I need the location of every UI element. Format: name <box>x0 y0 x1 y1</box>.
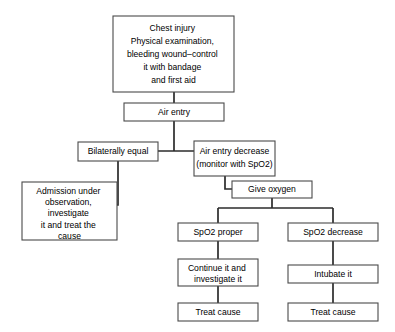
node-air-entry-decrease-label-line1: Air entry decrease <box>200 146 270 156</box>
node-bilaterally-equal-label: Bilaterally equal <box>88 146 149 156</box>
node-air-entry-label: Air entry <box>158 107 191 117</box>
node-spo2-proper: SpO2 proper <box>178 223 258 241</box>
node-spo2-decrease-label: SpO2 decrease <box>303 227 363 237</box>
node-treat-cause-left: Treat cause <box>178 303 258 321</box>
node-give-oxygen: Give oxygen <box>232 181 312 198</box>
chest-injury-flowchart: Chest injury Physical examination, bleed… <box>0 0 395 332</box>
node-spo2-proper-label: SpO2 proper <box>193 227 242 237</box>
node-spo2-decrease: SpO2 decrease <box>288 223 378 241</box>
node-continue-investigate-label: Continue it and investigate it <box>188 263 248 285</box>
node-air-entry: Air entry <box>124 103 224 121</box>
node-intubate-label: Intubate it <box>314 269 352 279</box>
node-air-entry-decrease-label-line2: (monitor with SpO2) <box>196 159 273 169</box>
node-treat-cause-right: Treat cause <box>288 303 378 321</box>
node-treat-cause-right-label: Treat cause <box>310 307 355 317</box>
node-air-entry-decrease: Air entry decrease (monitor with SpO2) <box>194 141 275 176</box>
node-admission: Admission under observation, investigate… <box>22 182 117 241</box>
node-give-oxygen-label: Give oxygen <box>248 184 296 194</box>
connector-air-entry-decrease-to-give-oxygen <box>225 176 232 189</box>
node-treat-cause-left-label: Treat cause <box>195 307 240 317</box>
node-continue-investigate: Continue it and investigate it <box>178 259 258 286</box>
node-chest-injury: Chest injury Physical examination, bleed… <box>113 16 234 92</box>
node-bilaterally-equal: Bilaterally equal <box>78 142 158 161</box>
node-intubate: Intubate it <box>288 265 378 283</box>
